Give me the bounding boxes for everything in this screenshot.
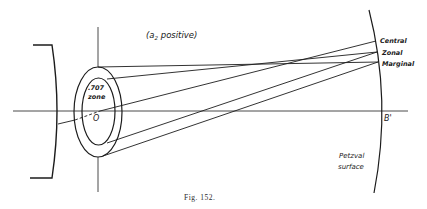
aberration-diagram: (a2 positive) Central Zonal Marginal B' … [0, 0, 427, 209]
petzval-label-line1: Petzval [339, 152, 364, 160]
zonal-label: Zonal [381, 49, 403, 57]
image-point-label: B' [384, 114, 392, 123]
condition-label: (a2 positive) [146, 30, 197, 41]
figure-caption: Fig. 152. [184, 193, 215, 202]
lens-outline [30, 45, 57, 178]
marginal-ray-lower [103, 62, 378, 156]
petzval-label-line2: surface [338, 163, 364, 171]
central-ray-extension [58, 120, 75, 124]
central-label: Central [380, 37, 408, 45]
zone-label-line1: .707 [88, 84, 105, 92]
zone-label-line2: zone [87, 93, 106, 101]
marginal-label: Marginal [382, 60, 415, 68]
origin-label: O [93, 114, 99, 123]
